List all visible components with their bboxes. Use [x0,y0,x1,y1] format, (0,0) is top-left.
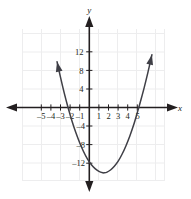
x-tick-label: 4 [126,111,131,121]
y-tick-label: 4 [79,84,84,94]
x-tick-labels: –5 –4 –3 –2 –1 1 2 3 4 5 [36,111,140,121]
y-tick-label: –4 [76,121,86,131]
graph-figure: –5 –4 –3 –2 –1 1 2 3 4 5 12 8 4 –4 –8 –1… [0,0,191,199]
x-axis-label: x [177,103,182,113]
x-tick-label: 2 [106,111,110,121]
arrow-up-left-icon [56,62,63,73]
arrow-left-icon [6,103,17,111]
arrow-up-icon [85,16,93,27]
x-tick-label: 1 [97,111,101,121]
x-axis [6,103,178,111]
x-tick-label: –4 [46,111,56,121]
y-tick-label: –12 [71,158,85,168]
x-tick-label: –3 [55,111,65,121]
arrow-down-icon [85,181,93,192]
y-tick-label: 12 [75,47,84,57]
x-tick-label: 3 [116,111,120,121]
x-tick-label: –1 [75,111,85,121]
coordinate-plane-svg: –5 –4 –3 –2 –1 1 2 3 4 5 12 8 4 –4 –8 –1… [0,0,191,199]
y-tick-label: 8 [79,66,83,76]
arrow-right-icon [167,103,178,111]
grid-lines [22,29,165,181]
arrow-up-right-icon [146,55,153,66]
y-axis-label: y [86,5,91,15]
x-tick-label: –5 [36,111,46,121]
